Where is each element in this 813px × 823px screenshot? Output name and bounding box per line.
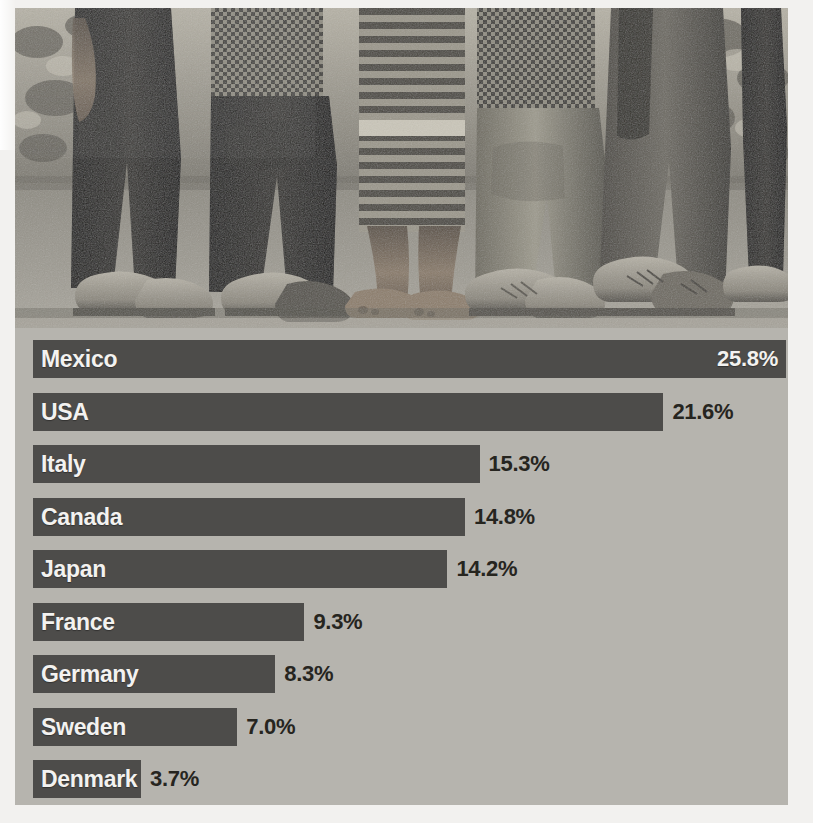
bar-row: USA21.6%: [33, 393, 773, 431]
page-root: Mexico25.8%USA21.6%Italy15.3%Canada14.8%…: [0, 0, 813, 823]
bar-row: Mexico25.8%: [33, 340, 773, 378]
bar-value-label: 8.3%: [284, 655, 333, 693]
bar-value-label: 7.0%: [246, 708, 295, 746]
bar: [33, 340, 786, 378]
bar-category-label: Denmark: [41, 760, 137, 798]
bar-row: Germany8.3%: [33, 655, 773, 693]
bar-chart: Mexico25.8%USA21.6%Italy15.3%Canada14.8%…: [15, 328, 788, 805]
bar-row: Japan14.2%: [33, 550, 773, 588]
bar-row: Denmark3.7%: [33, 760, 773, 798]
bar-value-label: 9.3%: [313, 603, 362, 641]
bar-category-label: Germany: [41, 655, 139, 693]
bar-category-label: USA: [41, 393, 89, 431]
bar-value-label: 14.8%: [474, 498, 535, 536]
bar: [33, 445, 480, 483]
bar-category-label: Japan: [41, 550, 106, 588]
bar-value-label: 25.8%: [694, 340, 778, 378]
bar-value-label: 15.3%: [489, 445, 550, 483]
photograph: [15, 8, 788, 328]
bar-row: Canada14.8%: [33, 498, 773, 536]
bar-category-label: France: [41, 603, 115, 641]
bar: [33, 393, 663, 431]
bar-category-label: Mexico: [41, 340, 117, 378]
bar-category-label: Sweden: [41, 708, 126, 746]
bar-row: Sweden7.0%: [33, 708, 773, 746]
bar-category-label: Italy: [41, 445, 86, 483]
bar-value-label: 14.2%: [456, 550, 517, 588]
bar-row: Italy15.3%: [33, 445, 773, 483]
bar-row: France9.3%: [33, 603, 773, 641]
bar-value-label: 21.6%: [672, 393, 733, 431]
bar-value-label: 3.7%: [150, 760, 199, 798]
bar-category-label: Canada: [41, 498, 122, 536]
figure-panel: Mexico25.8%USA21.6%Italy15.3%Canada14.8%…: [15, 8, 788, 805]
